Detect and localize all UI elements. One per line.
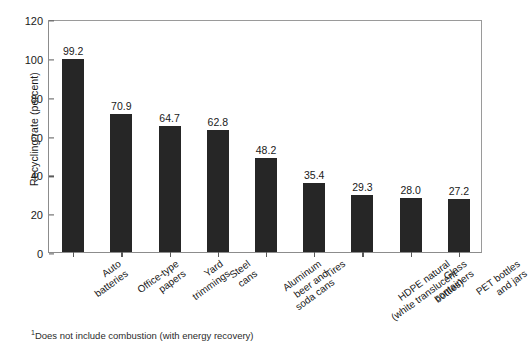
y-tick-mark — [49, 176, 54, 177]
x-tick-mark — [459, 252, 460, 257]
y-tick-label: 100 — [25, 54, 49, 66]
y-tick-label: 0 — [37, 248, 49, 260]
x-category-label: Tires — [323, 258, 347, 280]
y-tick-label: 20 — [31, 209, 49, 221]
x-category-label: Office-typepapers — [136, 258, 188, 305]
bar-value-label: 62.8 — [208, 116, 228, 128]
x-tick-mark — [218, 252, 219, 257]
bar: 28.0 — [400, 198, 422, 252]
bar-value-label: 70.9 — [111, 100, 131, 112]
bar: 62.8 — [207, 130, 229, 252]
x-tick-mark — [314, 252, 315, 257]
bar: 48.2 — [255, 158, 277, 252]
bar: 64.7 — [159, 126, 181, 252]
bar-value-label: 29.3 — [352, 181, 372, 193]
y-tick-label: 60 — [31, 132, 49, 144]
bar: 99.2 — [62, 59, 84, 252]
bar-value-label: 99.2 — [63, 45, 83, 57]
y-tick-label: 120 — [25, 15, 49, 27]
bar-value-label: 48.2 — [256, 144, 276, 156]
x-tick-mark — [73, 252, 74, 257]
bar: 29.3 — [351, 195, 373, 252]
x-tick-mark — [266, 252, 267, 257]
x-tick-mark — [362, 252, 363, 257]
bar: 35.4 — [303, 183, 325, 252]
x-category-label: Autobatteries — [85, 258, 130, 299]
y-tick-mark — [49, 20, 54, 21]
bar-value-label: 27.2 — [449, 185, 469, 197]
x-category-label: Steelcans — [227, 258, 259, 290]
footnote: 1Does not include combustion (with energ… — [31, 329, 254, 341]
x-category-label: PET bottlesand jars — [474, 258, 529, 307]
footnote-text: Does not include combustion (with energy… — [35, 330, 254, 341]
x-category-label: Yardtrimmings — [183, 258, 232, 302]
x-tick-mark — [411, 252, 412, 257]
y-tick-mark — [49, 215, 54, 216]
x-tick-mark — [170, 252, 171, 257]
y-tick-mark — [49, 59, 54, 60]
y-tick-label: 40 — [31, 170, 49, 182]
bar: 70.9 — [110, 114, 132, 252]
bar: 27.2 — [448, 199, 470, 252]
bar-value-label: 35.4 — [304, 169, 324, 181]
x-tick-mark — [121, 252, 122, 257]
bar-value-label: 64.7 — [159, 112, 179, 124]
y-tick-mark — [49, 137, 54, 138]
bar-value-label: 28.0 — [400, 184, 420, 196]
y-tick-mark — [49, 98, 54, 99]
plot-area: 020406080100120 99.270.964.762.848.235.4… — [48, 20, 482, 253]
y-tick-mark — [49, 253, 54, 254]
x-category-label-line: Tires — [323, 258, 347, 280]
y-tick-label: 80 — [31, 93, 49, 105]
